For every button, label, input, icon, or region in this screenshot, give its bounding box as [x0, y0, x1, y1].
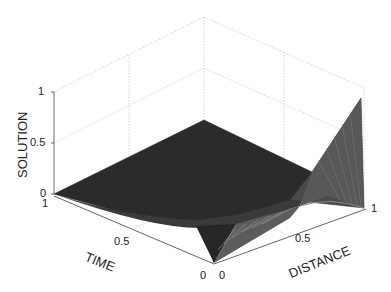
surface: [54, 98, 364, 263]
time-tick-0: 0: [200, 270, 206, 281]
distance-tick-0.5: 0.5: [295, 233, 310, 244]
time-tick-1: 1: [42, 198, 48, 209]
z-axis-label: SOLUTION: [16, 112, 29, 178]
z-tick-0.5: 0.5: [30, 137, 45, 148]
z-tick-1: 1: [38, 86, 44, 97]
distance-tick-1: 1: [371, 203, 377, 214]
distance-tick-0: 0: [219, 270, 225, 281]
time-tick-0.5: 0.5: [114, 236, 129, 247]
